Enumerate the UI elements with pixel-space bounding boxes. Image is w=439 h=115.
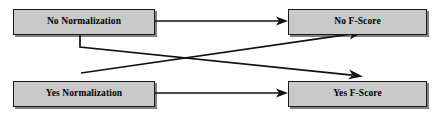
edge-no-normalization-to-yes-f-score [80,35,363,79]
node-label-yes-f-score: Yes F-Score [333,89,382,99]
node-yes-f-score[interactable]: Yes F-Score [288,81,427,107]
node-no-normalization[interactable]: No Normalization [13,9,155,35]
diagram-canvas: No Normalization No F-Score Yes Normaliz… [0,0,439,115]
edge-no-normalization-to-no-f-score [155,17,288,26]
node-label-yes-normalization: Yes Normalization [46,89,122,99]
node-yes-normalization[interactable]: Yes Normalization [13,81,155,107]
edge-yes-normalization-to-yes-f-score [155,89,288,98]
edge-yes-normalization-to-no-f-score [81,29,363,73]
node-label-no-f-score: No F-Score [334,17,380,27]
node-no-f-score[interactable]: No F-Score [288,9,427,35]
node-label-no-normalization: No Normalization [47,17,121,27]
